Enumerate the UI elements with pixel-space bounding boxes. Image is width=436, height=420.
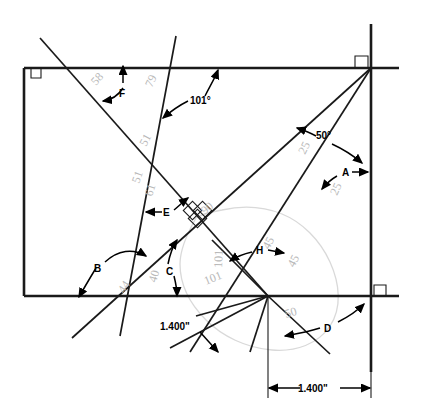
- right-angle-marker-top-left: [31, 68, 41, 78]
- faint-value-90: 90: [198, 199, 216, 217]
- label-angle-50: 50°: [316, 130, 331, 141]
- faint-value-61: 61: [142, 182, 159, 198]
- faint-value-45-lower: 45: [284, 252, 302, 269]
- label-a: A: [342, 167, 349, 178]
- label-e: E: [163, 207, 170, 218]
- faint-value-79: 79: [142, 73, 160, 90]
- faint-value-25-upper: 25: [295, 139, 313, 156]
- geometry-drawing: 58 79 51 51 61 25 25 90 44 40 101 45 45 …: [0, 0, 436, 420]
- diagram-canvas: 58 79 51 51 61 25 25 90 44 40 101 45 45 …: [0, 0, 436, 420]
- label-angle-101: 101°: [190, 95, 211, 106]
- leader-arc-101-up: [205, 70, 218, 96]
- faint-value-50-lower: 50: [283, 304, 298, 321]
- label-c: C: [166, 266, 173, 277]
- leader-dimension-1: [200, 332, 218, 352]
- faint-value-51-lower: 51: [129, 169, 146, 185]
- faint-value-40: 40: [145, 268, 162, 283]
- label-d: D: [324, 323, 331, 334]
- leader-arc-50-right: [332, 144, 362, 163]
- ray-bottom-left-to-top-right: [72, 68, 371, 338]
- leader-arc-101-down: [163, 101, 188, 118]
- label-f: F: [119, 88, 125, 99]
- label-dimension-2: 1.400": [298, 383, 328, 394]
- leader-arc-b-upper: [105, 251, 146, 262]
- ray-hub-down-right: [268, 296, 330, 354]
- ray-hub-left-stub: [196, 296, 268, 316]
- faint-value-51-upper: 51: [136, 131, 154, 148]
- faint-value-101-rotated: 101: [202, 268, 224, 288]
- right-angle-marker-top-right: [355, 56, 368, 68]
- faint-value-101-left: 101: [211, 250, 226, 268]
- leader-arc-c-up: [168, 240, 177, 264]
- faint-value-58: 58: [88, 70, 106, 88]
- label-h: H: [256, 245, 263, 256]
- leader-arc-c-down: [174, 276, 177, 296]
- label-dimension-1: 1.400": [160, 321, 190, 332]
- faint-value-25-lower: 25: [327, 181, 345, 198]
- leader-arc-d-right: [338, 304, 364, 322]
- right-angle-marker-bottom-right: [374, 285, 386, 296]
- label-b: B: [94, 263, 101, 274]
